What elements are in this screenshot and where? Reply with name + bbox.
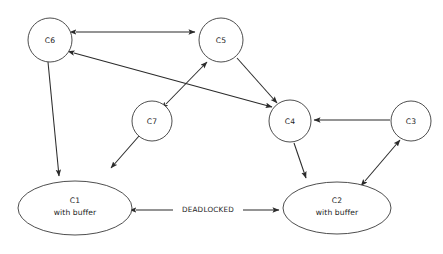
edge-c7-c5-line — [166, 62, 207, 104]
edge-c5-c4 — [237, 58, 277, 103]
node-c1-sublabel: with buffer — [54, 208, 97, 217]
node-c2[interactable]: C2 with buffer — [283, 182, 391, 234]
node-c4[interactable]: C4 — [269, 100, 311, 142]
edge-c6-c4 — [74, 53, 272, 107]
diagram-canvas: DEADLOCKED C6 C5 C7 C4 C3 — [0, 0, 443, 254]
edge-c1-c2: DEADLOCKED — [136, 203, 279, 217]
node-c6-label: C6 — [45, 36, 55, 45]
edge-c7-c1 — [111, 136, 139, 168]
edge-c7-c1-line — [111, 136, 139, 168]
edge-c5-c4-line — [237, 58, 277, 103]
node-c6[interactable]: C6 — [28, 18, 72, 62]
node-c3[interactable]: C3 — [391, 101, 431, 141]
node-c5[interactable]: C5 — [199, 18, 243, 62]
edge-c4-c2-line — [294, 143, 306, 178]
edge-c7-c5 — [166, 62, 207, 104]
node-c7-label: C7 — [147, 117, 157, 126]
edge-c6-c1-line — [48, 62, 59, 176]
edge-c6-c4-line — [74, 53, 272, 107]
node-c7[interactable]: C7 — [132, 101, 172, 141]
node-c2-label: C2 — [332, 196, 342, 205]
node-c2-sublabel: with buffer — [316, 208, 359, 217]
node-c5-label: C5 — [216, 36, 226, 45]
node-c1[interactable]: C1 with buffer — [18, 181, 132, 235]
deadlock-diagram: DEADLOCKED C6 C5 C7 C4 C3 — [0, 0, 443, 254]
node-c3-label: C3 — [406, 117, 416, 126]
node-c4-label: C4 — [285, 117, 295, 126]
edge-c4-c2 — [294, 143, 306, 178]
node-c1-label: C1 — [70, 196, 80, 205]
edge-c2-c3-line — [365, 140, 400, 181]
edge-c2-c3 — [365, 140, 400, 181]
edge-c6-c1 — [48, 62, 59, 176]
deadlocked-label: DEADLOCKED — [182, 205, 234, 214]
